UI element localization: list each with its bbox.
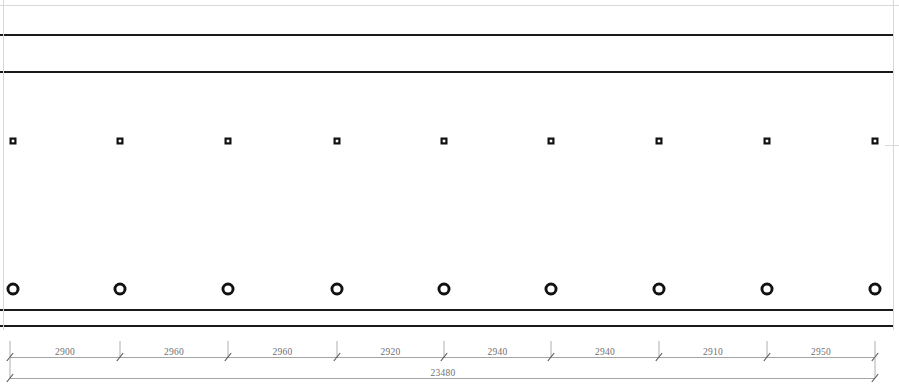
bolt-square-center-2 bbox=[227, 140, 230, 143]
overall-dimension-group: 23480 bbox=[7, 357, 878, 382]
dimension-label-5: 2940 bbox=[595, 347, 615, 357]
bolt-square-center-0 bbox=[12, 140, 15, 143]
hole-circle-4 bbox=[439, 284, 449, 294]
horizontal-lines-group bbox=[0, 5, 899, 326]
hole-circle-1 bbox=[115, 284, 125, 294]
bolt-square-center-7 bbox=[766, 140, 769, 143]
cad-drawing-canvas: 29002960296029202940294029102950 23480 bbox=[0, 0, 899, 390]
bolt-square-center-8 bbox=[874, 140, 877, 143]
bolt-square-center-6 bbox=[658, 140, 661, 143]
dimension-label-1: 2960 bbox=[164, 347, 184, 357]
dimension-label-3: 2920 bbox=[380, 347, 400, 357]
bolt-square-center-3 bbox=[336, 140, 339, 143]
hole-circle-5 bbox=[546, 284, 556, 294]
hole-circle-6 bbox=[654, 284, 664, 294]
dimension-label-7: 2950 bbox=[811, 347, 831, 357]
overall-dimension-label: 23480 bbox=[430, 368, 455, 378]
vertical-lines-group bbox=[3, 0, 893, 330]
bolt-square-center-4 bbox=[443, 140, 446, 143]
square-markers-group bbox=[10, 138, 879, 145]
hole-circle-7 bbox=[762, 284, 772, 294]
hole-circle-0 bbox=[8, 284, 18, 294]
dimension-chain-group: 29002960296029202940294029102950 bbox=[7, 341, 878, 361]
hole-circle-3 bbox=[332, 284, 342, 294]
dimension-label-0: 2900 bbox=[55, 347, 75, 357]
drawing-viewport: 29002960296029202940294029102950 23480 bbox=[0, 0, 899, 390]
dimension-label-4: 2940 bbox=[487, 347, 507, 357]
hole-circle-8 bbox=[870, 284, 880, 294]
hole-circle-2 bbox=[223, 284, 233, 294]
dimension-label-6: 2910 bbox=[703, 347, 723, 357]
bolt-square-center-5 bbox=[550, 140, 553, 143]
circle-markers-group bbox=[8, 284, 880, 294]
dimension-label-2: 2960 bbox=[272, 347, 292, 357]
bolt-square-center-1 bbox=[119, 140, 122, 143]
